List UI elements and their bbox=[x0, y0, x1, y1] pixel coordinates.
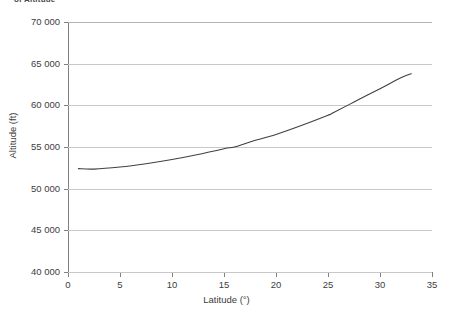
chart-figure: of Altitude 40 00045 00050 00055 00060 0… bbox=[0, 0, 453, 316]
x-tick-mark-10 bbox=[172, 273, 173, 277]
y-tick-mark-45000 bbox=[64, 230, 68, 231]
y-tick-mark-70000 bbox=[64, 22, 68, 23]
x-tick-label-15: 15 bbox=[211, 279, 237, 290]
y-axis-title: Altitude (ft) bbox=[7, 96, 18, 176]
x-tick-mark-25 bbox=[328, 273, 329, 277]
x-tick-mark-30 bbox=[380, 273, 381, 277]
x-tick-mark-35 bbox=[432, 273, 433, 277]
y-tick-mark-65000 bbox=[64, 64, 68, 65]
x-tick-label-30: 30 bbox=[367, 279, 393, 290]
x-tick-mark-20 bbox=[276, 273, 277, 277]
y-tick-label-50000: 50 000 bbox=[2, 183, 60, 194]
x-axis-title: Latitude (°) bbox=[0, 294, 453, 305]
x-tick-mark-0 bbox=[68, 273, 69, 277]
x-tick-mark-5 bbox=[120, 273, 121, 277]
y-tick-mark-55000 bbox=[64, 147, 68, 148]
x-tick-mark-15 bbox=[224, 273, 225, 277]
y-tick-mark-60000 bbox=[64, 105, 68, 106]
gridline-40000 bbox=[68, 272, 432, 273]
plot-area bbox=[68, 22, 432, 272]
y-tick-label-40000: 40 000 bbox=[2, 266, 60, 277]
x-tick-label-25: 25 bbox=[315, 279, 341, 290]
x-tick-label-20: 20 bbox=[263, 279, 289, 290]
x-tick-label-35: 35 bbox=[419, 279, 445, 290]
altitude-latitude-curve bbox=[78, 74, 411, 169]
y-tick-label-45000: 45 000 bbox=[2, 224, 60, 235]
x-tick-label-0: 0 bbox=[55, 279, 81, 290]
x-tick-label-5: 5 bbox=[107, 279, 133, 290]
data-curve-svg bbox=[68, 22, 432, 272]
y-tick-mark-50000 bbox=[64, 189, 68, 190]
x-tick-label-10: 10 bbox=[159, 279, 185, 290]
y-tick-label-70000: 70 000 bbox=[2, 16, 60, 27]
y-tick-label-65000: 65 000 bbox=[2, 58, 60, 69]
